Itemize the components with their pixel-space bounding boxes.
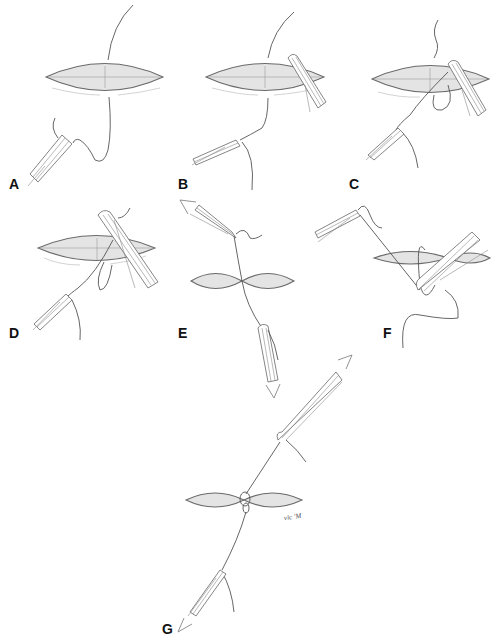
instrument-with-arrow-icon — [258, 324, 280, 398]
panel-label-b: B — [178, 177, 188, 191]
instrument-with-arrow-icon — [178, 570, 226, 632]
panel-b-drawing — [192, 12, 326, 190]
panel-f-drawing — [315, 206, 490, 348]
panel-label-d: D — [9, 326, 19, 340]
forceps-icon — [33, 294, 72, 330]
panel-label-f: F — [383, 326, 392, 340]
panel-a-drawing — [28, 5, 163, 186]
panel-e-drawing — [180, 200, 294, 398]
illustration-canvas — [0, 0, 501, 644]
forceps-icon — [315, 210, 360, 242]
needle-holder-icon — [28, 135, 72, 186]
panel-d-drawing — [33, 208, 158, 340]
panel-label-c: C — [349, 177, 359, 191]
instrument-with-arrow-icon — [277, 355, 352, 440]
knot-tying-figure: A B C D E F G vic 'M — [0, 0, 501, 644]
panel-label-e: E — [178, 326, 187, 340]
instrument-with-arrow-icon — [180, 200, 236, 238]
panel-label-g: G — [162, 622, 173, 636]
needle-holder-icon — [192, 140, 240, 165]
panel-c-drawing — [366, 20, 489, 168]
panel-label-a: A — [9, 177, 19, 191]
needle-holder-icon — [366, 128, 404, 160]
panel-g-drawing — [178, 355, 352, 632]
